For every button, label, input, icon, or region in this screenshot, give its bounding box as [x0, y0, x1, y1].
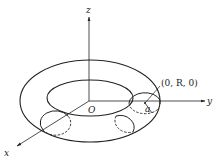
- radius-label: a: [145, 104, 150, 114]
- cross-section-right-dashed: [129, 103, 159, 114]
- torus-diagram: z y x O (0, R, 0) a: [0, 0, 220, 165]
- cross-section-front-right-dashed: [115, 116, 133, 133]
- y-axis-label: y: [206, 96, 213, 106]
- cross-section-left-dashed: [43, 116, 71, 135]
- origin-label: O: [88, 105, 96, 115]
- z-axis-label: z: [85, 5, 91, 15]
- cross-section-front-right-solid: [116, 115, 134, 132]
- x-axis-label: x: [4, 148, 9, 158]
- point-label: (0, R, 0): [161, 78, 198, 88]
- point-leader-line: [145, 86, 160, 103]
- cross-section-left-solid: [40, 111, 68, 130]
